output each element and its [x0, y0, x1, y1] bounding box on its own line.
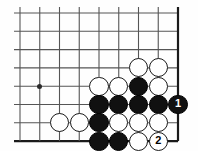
- stone-white: [89, 77, 108, 96]
- stone-black: [149, 95, 168, 114]
- stone-black: [129, 77, 148, 96]
- stone-white: [129, 132, 148, 151]
- stone-black: [89, 113, 108, 132]
- stone-white: [149, 113, 168, 132]
- stone-white: [109, 77, 128, 96]
- stone-white: [70, 113, 89, 132]
- stone-black: [89, 95, 108, 114]
- move-number-label: 2: [155, 135, 161, 146]
- stone-black: [109, 132, 128, 151]
- stone-black: [129, 95, 148, 114]
- star-point: [37, 84, 42, 89]
- stone-white: [149, 77, 168, 96]
- move-number-label: 1: [175, 98, 181, 109]
- move-stone-1: 1: [168, 95, 187, 114]
- stone-black: [89, 132, 108, 151]
- go-board-diagram: 12: [0, 0, 198, 151]
- move-stone-2: 2: [149, 132, 168, 151]
